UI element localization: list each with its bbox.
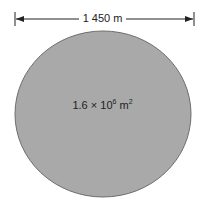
circular-area-shape bbox=[15, 31, 191, 197]
diameter-label: 1 450 m bbox=[0, 12, 205, 24]
area-label: 1.6 × 106 m2 bbox=[0, 98, 205, 111]
